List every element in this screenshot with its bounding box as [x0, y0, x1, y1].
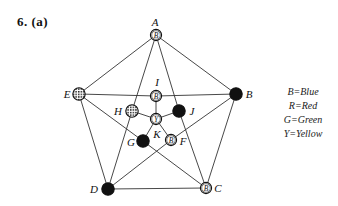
legend-item-green: G=Green: [272, 113, 334, 127]
edge-H-D: [108, 111, 132, 189]
node-color-code: B: [154, 92, 159, 101]
node-label-E: E: [63, 88, 71, 100]
node-color-code: B: [169, 136, 174, 145]
node-label-A: A: [151, 16, 159, 28]
node-D: [102, 183, 114, 195]
edge-E-I: [79, 94, 156, 96]
graph-edges: [79, 35, 236, 189]
node-label-D: D: [89, 183, 98, 195]
node-B: [230, 88, 242, 100]
node-I: B: [150, 90, 161, 101]
node-label-G: G: [127, 136, 135, 148]
node-C: B: [200, 182, 211, 193]
node-F: B: [165, 134, 176, 145]
node-label-B: B: [246, 88, 253, 100]
node-label-C: C: [214, 182, 222, 194]
node-A: B: [150, 29, 161, 40]
color-legend: B=Blue R=Red G=Green Y=Yellow: [272, 85, 334, 141]
node-J: [173, 105, 185, 117]
edge-G-C: [143, 141, 206, 188]
edge-A-B: [156, 35, 236, 94]
node-label-K: K: [152, 128, 161, 140]
node-color-code: B: [154, 31, 159, 40]
legend-item-blue: B=Blue: [272, 85, 334, 99]
node-label-F: F: [179, 135, 187, 147]
graph-labels: ABCDEIHJGFK: [63, 16, 253, 195]
edge-E-A: [79, 35, 156, 94]
node-label-J: J: [190, 105, 196, 117]
node-color-code: B: [204, 184, 209, 193]
node-G: [137, 135, 149, 147]
node-label-H: H: [113, 105, 123, 117]
legend-item-red: R=Red: [272, 99, 334, 113]
edge-I-B: [156, 94, 236, 96]
node-K: Y: [150, 113, 161, 124]
legend-item-yellow: Y=Yellow: [272, 127, 334, 141]
edge-J-C: [179, 111, 206, 188]
node-label-I: I: [154, 76, 160, 88]
graph-nodes: BBBBY: [73, 29, 242, 195]
edge-C-D: [108, 188, 206, 189]
node-H: [126, 105, 138, 117]
edge-D-F: [108, 140, 171, 189]
edge-D-E: [79, 94, 108, 189]
edge-B-C: [206, 94, 236, 188]
node-E: [73, 88, 85, 100]
